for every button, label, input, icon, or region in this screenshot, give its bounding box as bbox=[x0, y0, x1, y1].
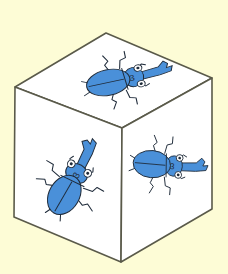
cube-illustration: 3 bbox=[0, 0, 228, 274]
